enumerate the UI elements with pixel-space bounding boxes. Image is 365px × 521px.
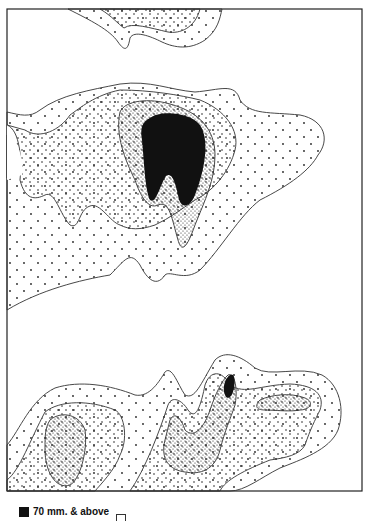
legend-item-dotted-cutoff: [116, 514, 126, 521]
legend-item-70mm: 70 mm. & above: [19, 506, 109, 517]
solid-black-swatch-icon: [19, 507, 29, 517]
legend-label: 70 mm. & above: [33, 506, 109, 517]
